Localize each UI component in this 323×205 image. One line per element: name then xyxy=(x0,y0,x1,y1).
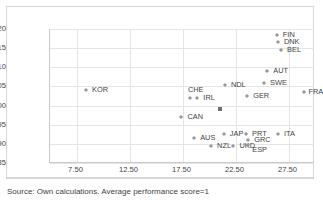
data-point-marker-irl xyxy=(195,96,199,100)
y-tick-label-2: 0.95 xyxy=(0,121,6,129)
gridline-x-0 xyxy=(77,29,78,162)
data-point-marker-che xyxy=(188,96,192,100)
y-tick-label-4: 1.05 xyxy=(0,82,6,90)
chart-frame: KORCHEIRLCANAUSNZLJAPUKDNDLGERPRTGRCESPS… xyxy=(6,6,314,178)
data-point-marker-fin xyxy=(275,33,279,37)
data-point-marker-dnk xyxy=(276,40,280,44)
x-tick-label-3: 22.50 xyxy=(225,165,244,174)
y-tick-label-6: 1.15 xyxy=(0,44,6,52)
gridline-x-3 xyxy=(236,29,237,162)
data-point-marker-bel xyxy=(279,48,283,52)
data-point-label-aus: AUS xyxy=(200,134,215,142)
x-tick-label-2: 17.50 xyxy=(172,165,191,174)
data-point-label-irl: IRL xyxy=(203,94,215,102)
source-note: Source: Own calculations. Average perfor… xyxy=(7,179,313,204)
data-point-marker-aut xyxy=(265,69,269,73)
y-tick-label-7: 1.20 xyxy=(0,25,6,33)
data-point-marker-unlabeled xyxy=(218,107,222,111)
data-point-label-bel: BEL xyxy=(287,46,301,54)
plot-area: KORCHEIRLCANAUSNZLJAPUKDNDLGERPRTGRCESPS… xyxy=(49,29,314,163)
data-point-label-swe: SWE xyxy=(270,79,287,87)
y-tick-label-0: 0.85 xyxy=(0,159,6,167)
data-point-label-jap: JAP xyxy=(230,130,244,138)
data-point-label-grc: GRC xyxy=(254,136,270,144)
x-tick-label-4: 27.50 xyxy=(278,165,297,174)
data-point-label-che: CHE xyxy=(188,86,204,94)
data-point-marker-swe xyxy=(262,80,266,84)
y-tick-label-5: 1.10 xyxy=(0,63,6,71)
gridline-y-0 xyxy=(50,163,314,164)
y-tick-label-3: 1.00 xyxy=(0,102,6,110)
data-point-label-can: CAN xyxy=(187,113,203,121)
data-point-marker-aus xyxy=(192,136,196,140)
data-point-label-aut: AUT xyxy=(273,67,288,75)
data-point-marker-fra xyxy=(302,90,306,94)
data-point-label-nzl: NZL xyxy=(217,142,231,150)
data-point-label-fra: FRA xyxy=(308,88,323,96)
gridline-x-1 xyxy=(130,29,131,162)
data-point-label-ndl: NDL xyxy=(231,81,246,89)
data-point-marker-kor xyxy=(84,88,88,92)
data-point-label-kor: KOR xyxy=(92,86,108,94)
gridline-x-2 xyxy=(183,29,184,162)
y-tick-label-1: 0.90 xyxy=(0,140,6,148)
x-tick-label-1: 12.50 xyxy=(119,165,138,174)
data-point-marker-prt xyxy=(244,132,248,136)
data-point-label-ita: ITA xyxy=(284,130,295,138)
x-tick-label-0: 7.50 xyxy=(68,165,83,174)
data-point-marker-ger xyxy=(245,94,249,98)
data-point-label-esp: ESP xyxy=(252,146,267,154)
data-point-marker-jap xyxy=(222,132,226,136)
data-point-label-ger: GER xyxy=(253,92,269,100)
data-point-marker-ita xyxy=(276,132,280,136)
